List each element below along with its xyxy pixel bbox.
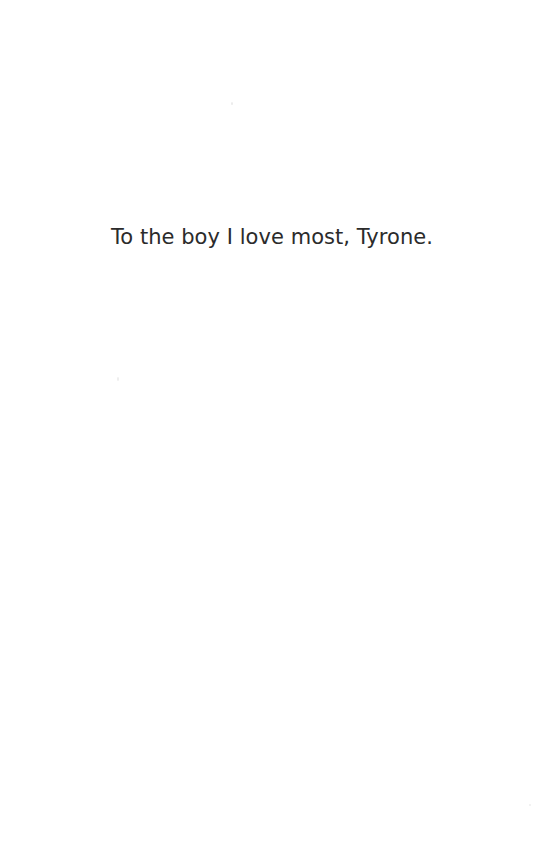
dedication-text-block: To the boy I love most, Tyrone. xyxy=(0,0,544,252)
dedication-line: To the boy I love most, Tyrone. xyxy=(111,222,433,252)
scan-speck-artifact xyxy=(117,377,119,381)
scan-speck-artifact xyxy=(529,804,531,806)
document-page: To the boy I love most, Tyrone. xyxy=(0,0,544,866)
